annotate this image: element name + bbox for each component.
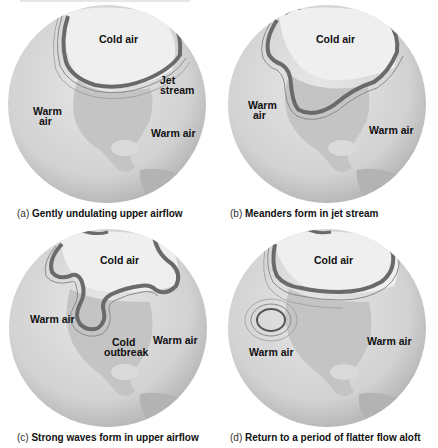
caption-tag: (d) bbox=[230, 432, 242, 443]
label-warm-air-left-2: air bbox=[39, 116, 52, 127]
panel-d: Cold air Warm air Warm air (d) Return to… bbox=[219, 224, 438, 448]
label-warm-air-right: Warm air bbox=[367, 336, 412, 347]
caption-text: Return to a period of flatter flow aloft bbox=[245, 432, 421, 443]
label-warm-air-right: Warm air bbox=[369, 125, 414, 136]
label-warm-air-right: Warm air bbox=[153, 335, 198, 346]
label-cold-outbreak-2: outbreak bbox=[104, 347, 148, 358]
caption-tag: (c) bbox=[17, 432, 29, 443]
label-cold-air: Cold air bbox=[100, 255, 139, 266]
label-cold-air: Cold air bbox=[316, 34, 355, 45]
caption-text: Meanders form in jet stream bbox=[245, 208, 378, 219]
caption-tag: (a) bbox=[17, 208, 29, 219]
caption-tag: (b) bbox=[230, 208, 242, 219]
caption-text: Strong waves form in upper airflow bbox=[31, 432, 198, 443]
caption-a: (a) Gently undulating upper airflow bbox=[17, 208, 183, 219]
label-warm-air-left-2: air bbox=[253, 110, 266, 121]
label-cold-air: Cold air bbox=[99, 34, 138, 45]
label-warm-air-left: Warm air bbox=[30, 314, 75, 325]
caption-b: (b) Meanders form in jet stream bbox=[230, 208, 378, 219]
panel-a: Cold air Jet stream Warm air Warm air (a… bbox=[0, 0, 219, 224]
label-cold-air: Cold air bbox=[314, 255, 353, 266]
panel-b: Cold air Warm air Warm air (b) Meanders … bbox=[219, 0, 438, 224]
caption-d: (d) Return to a period of flatter flow a… bbox=[230, 432, 421, 443]
label-jet-stream-2: stream bbox=[160, 85, 194, 96]
label-warm-air-right: Warm air bbox=[151, 128, 196, 139]
label-warm-air-left: Warm air bbox=[249, 347, 294, 358]
caption-text: Gently undulating upper airflow bbox=[32, 208, 183, 219]
caption-c: (c) Strong waves form in upper airflow bbox=[17, 432, 199, 443]
panel-c: Cold air Warm air Warm air Cold outbreak… bbox=[0, 224, 219, 448]
